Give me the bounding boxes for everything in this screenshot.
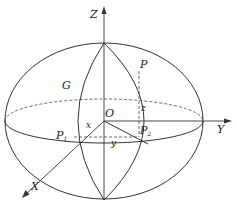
y-axis-label: Y <box>217 123 226 136</box>
coord-y-label: y <box>110 138 117 148</box>
z-axis-label: Z <box>89 8 98 21</box>
x-axis-label: X <box>30 180 40 193</box>
meridian-p <box>104 43 144 200</box>
meridian-label: G <box>62 79 71 92</box>
y-axis-arrow-icon <box>224 119 232 124</box>
coord-x-label: x <box>86 120 91 130</box>
origin-label: O <box>105 107 114 120</box>
ellipsoid-diagram: Z Y X O G P P1 P2 x y z <box>0 0 237 214</box>
point-p-label: P <box>139 58 148 71</box>
x-axis-arrow-icon <box>22 190 30 198</box>
z-axis-arrow-icon <box>102 6 107 14</box>
coord-z-label: z <box>140 103 146 113</box>
point-p1-label: P1 <box>55 129 67 142</box>
point-p2-label: P2 <box>139 124 151 137</box>
